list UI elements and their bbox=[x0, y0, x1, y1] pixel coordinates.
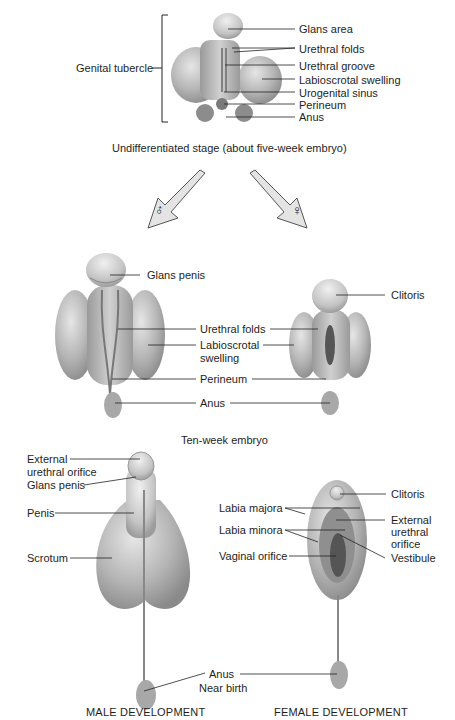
anus-label: Anus bbox=[299, 111, 324, 123]
perineum-label: Perineum bbox=[200, 373, 247, 385]
male-development-heading: MALE DEVELOPMENT bbox=[86, 706, 205, 718]
glans-penis-label: Glans penis bbox=[27, 479, 85, 491]
male-arrow bbox=[148, 170, 205, 228]
urogenital-sinus-label: Urogenital sinus bbox=[299, 87, 378, 99]
vaginal-orifice-label: Vaginal orifice bbox=[219, 550, 287, 562]
clitoris-label: Clitoris bbox=[391, 289, 425, 301]
external-label: External bbox=[391, 514, 431, 526]
female-arrow bbox=[250, 170, 307, 228]
labioscrotal-label: Labioscrotal bbox=[200, 339, 259, 351]
undifferentiated-stage-drawing bbox=[152, 13, 295, 122]
urethral-folds-label: Urethral folds bbox=[200, 323, 265, 335]
glans-penis-label: Glans penis bbox=[147, 269, 205, 281]
female-symbol-icon: ♀ bbox=[292, 204, 303, 216]
perineum-label: Perineum bbox=[299, 99, 346, 111]
glans-area-label: Glans area bbox=[299, 23, 353, 35]
genital-tubercle-label: Genital tubercle bbox=[76, 62, 153, 74]
penis-label: Penis bbox=[27, 507, 55, 519]
urethral-groove-label: Urethral groove bbox=[299, 60, 375, 72]
orifice-label: orifice bbox=[391, 538, 420, 550]
scrotum-label: Scrotum bbox=[27, 552, 68, 564]
urethral-orifice-label: urethral orifice bbox=[27, 466, 97, 478]
vestibule-label: Vestibule bbox=[391, 552, 436, 564]
anus-label: Anus bbox=[200, 397, 225, 409]
female-development-heading: FEMALE DEVELOPMENT bbox=[274, 706, 408, 718]
stage3-caption: Near birth bbox=[199, 682, 247, 694]
urethral-folds-label: Urethral folds bbox=[299, 43, 364, 55]
clitoris-label: Clitoris bbox=[391, 488, 425, 500]
stage2-caption: Ten-week embryo bbox=[181, 434, 268, 446]
urethral-label: urethral bbox=[391, 526, 428, 538]
labia-majora-label: Labia majora bbox=[219, 502, 283, 514]
labia-minora-label: Labia minora bbox=[219, 524, 283, 536]
labioscrotal-swelling-label: Labioscrotal swelling bbox=[299, 74, 401, 86]
stage1-caption: Undifferentiated stage (about five-week … bbox=[112, 142, 347, 154]
swelling-label: swelling bbox=[200, 352, 239, 364]
external-label: External bbox=[27, 453, 67, 465]
anus-label: Anus bbox=[209, 668, 234, 680]
